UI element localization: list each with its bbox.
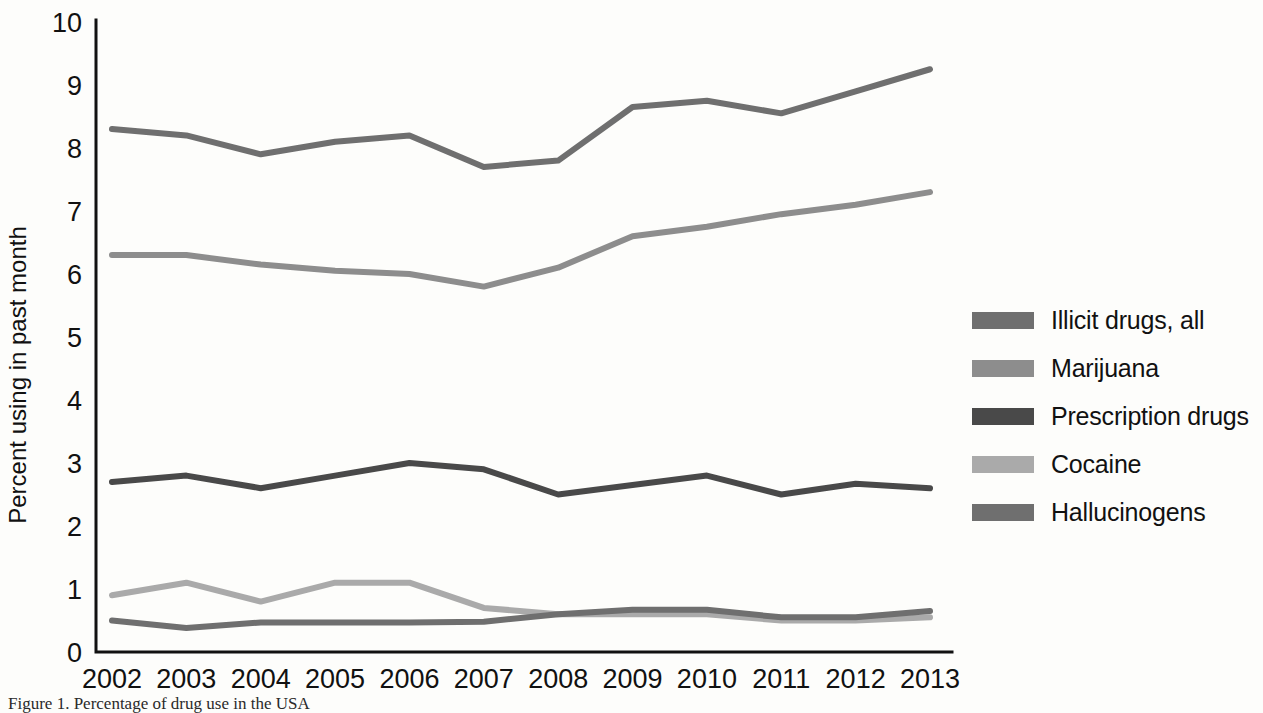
legend-item-label: Hallucinogens xyxy=(1051,498,1205,527)
legend-swatch-icon xyxy=(972,456,1034,473)
y-tick-2: 2 xyxy=(67,512,82,542)
chart-legend: Illicit drugs, allMarijuanaPrescription … xyxy=(972,296,1262,536)
y-tick-1: 1 xyxy=(67,575,82,605)
legend-item-prescription-drugs[interactable]: Prescription drugs xyxy=(972,392,1262,440)
legend-item-label: Marijuana xyxy=(1051,354,1159,383)
y-tick-8: 8 xyxy=(67,134,82,164)
y-axis-tick-labels: 012345678910 xyxy=(52,8,82,668)
legend-item-cocaine[interactable]: Cocaine xyxy=(972,440,1262,488)
legend-item-marijuana[interactable]: Marijuana xyxy=(972,344,1262,392)
y-tick-0: 0 xyxy=(67,638,82,668)
legend-item-hallucinogens[interactable]: Hallucinogens xyxy=(972,488,1262,536)
x-tick-2010: 2010 xyxy=(677,664,737,690)
figure-container: Percent using in past month 012345678910… xyxy=(0,0,1263,713)
x-tick-2007: 2007 xyxy=(454,664,514,690)
x-tick-2003: 2003 xyxy=(156,664,216,690)
legend-swatch-icon xyxy=(972,360,1034,377)
data-series-group xyxy=(112,69,930,628)
x-tick-2011: 2011 xyxy=(752,664,810,690)
y-axis-title-text: Percent using in past month xyxy=(4,226,31,524)
y-tick-6: 6 xyxy=(67,260,82,290)
x-axis-tick-labels: 2002200320042005200620072008200920102011… xyxy=(82,664,960,690)
legend-swatch-icon xyxy=(972,312,1034,329)
legend-item-label: Cocaine xyxy=(1051,450,1141,479)
series-line-marijuana xyxy=(112,192,930,287)
series-line-prescription-drugs xyxy=(112,463,930,495)
chart-plot-area: Percent using in past month 012345678910… xyxy=(0,0,960,690)
x-tick-2008: 2008 xyxy=(528,664,588,690)
legend-swatch-icon xyxy=(972,408,1034,425)
x-tick-2012: 2012 xyxy=(826,664,886,690)
y-tick-3: 3 xyxy=(67,449,82,479)
y-tick-9: 9 xyxy=(67,71,82,101)
x-tick-2005: 2005 xyxy=(305,664,365,690)
y-tick-7: 7 xyxy=(67,197,82,227)
line-chart: Percent using in past month 012345678910… xyxy=(0,0,960,690)
x-tick-2009: 2009 xyxy=(603,664,663,690)
y-axis-title: Percent using in past month xyxy=(4,226,31,524)
figure-caption: Figure 1. Percentage of drug use in the … xyxy=(8,694,310,713)
y-tick-10: 10 xyxy=(52,8,82,38)
x-tick-2004: 2004 xyxy=(231,664,291,690)
series-line-illicit-drugs-all xyxy=(112,69,930,167)
x-tick-2002: 2002 xyxy=(82,664,142,690)
legend-swatch-icon xyxy=(972,504,1034,521)
y-tick-4: 4 xyxy=(67,386,82,416)
legend-item-label: Prescription drugs xyxy=(1051,402,1249,431)
y-tick-5: 5 xyxy=(67,323,82,353)
legend-item-illicit-drugs-all[interactable]: Illicit drugs, all xyxy=(972,296,1262,344)
x-tick-2006: 2006 xyxy=(379,664,439,690)
axis-lines xyxy=(96,20,952,652)
legend-item-label: Illicit drugs, all xyxy=(1051,306,1204,335)
x-tick-2013: 2013 xyxy=(900,664,960,690)
